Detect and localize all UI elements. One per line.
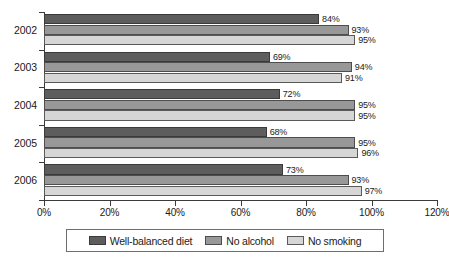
x-axis-tick: [372, 201, 373, 206]
x-axis-tick-label: 40%: [165, 207, 184, 218]
bar-2004-no-alcohol: [44, 100, 355, 110]
x-axis-tick-label: 120%: [425, 207, 449, 218]
bar-2006-no-smoking: [44, 186, 362, 196]
bar-value-label: 94%: [355, 62, 372, 72]
x-axis-tick-label: 100%: [359, 207, 384, 218]
bar-2004-no-smoking: [44, 110, 355, 120]
bar-value-label: 93%: [352, 175, 369, 185]
y-axis-tick: [39, 162, 44, 163]
y-axis-category-label-2005: 2005: [0, 137, 37, 149]
y-axis-category-label-2004: 2004: [0, 99, 37, 111]
x-axis-tick: [241, 201, 242, 206]
x-axis-tick-label: 80%: [296, 207, 315, 218]
bar-2003-no-smoking: [44, 73, 342, 83]
y-axis-tick: [39, 200, 44, 201]
bar-2005-well-balanced-diet: [44, 127, 267, 137]
x-axis-tick-label: 60%: [231, 207, 250, 218]
x-axis-tick: [110, 201, 111, 206]
bar-value-label: 95%: [358, 138, 375, 148]
bar-value-label: 68%: [270, 127, 287, 137]
y-axis-category-label-2006: 2006: [0, 174, 37, 186]
y-axis-tick: [39, 87, 44, 88]
y-axis-category-label-2002: 2002: [0, 24, 37, 36]
bar-2006-well-balanced-diet: [44, 164, 283, 174]
y-axis-tick: [39, 12, 44, 13]
bar-2004-well-balanced-diet: [44, 89, 280, 99]
x-axis-tick-label: 20%: [100, 207, 119, 218]
bar-value-label: 95%: [358, 35, 375, 45]
bar-2005-no-smoking: [44, 148, 358, 158]
bar-2005-no-alcohol: [44, 137, 355, 147]
bar-value-label: 96%: [361, 148, 378, 158]
bar-value-label: 91%: [345, 73, 362, 83]
bar-value-label: 69%: [273, 52, 290, 62]
bar-2002-no-smoking: [44, 35, 355, 45]
x-axis-tick-label: 0%: [37, 207, 51, 218]
legend-swatch-icon: [89, 236, 106, 245]
x-axis-tick: [44, 201, 45, 206]
bar-value-label: 84%: [322, 14, 339, 24]
legend-item-no-smoking[interactable]: No smoking: [287, 235, 361, 247]
legend-label: No smoking: [308, 235, 361, 247]
bar-2006-no-alcohol: [44, 175, 349, 185]
bar-value-label: 73%: [286, 165, 303, 175]
legend-item-no-alcohol[interactable]: No alcohol: [205, 235, 274, 247]
legend-item-well-balanced-diet[interactable]: Well-balanced diet: [89, 235, 193, 247]
bar-2003-well-balanced-diet: [44, 52, 270, 62]
bar-2002-well-balanced-diet: [44, 14, 319, 24]
legend-swatch-icon: [205, 236, 222, 245]
bar-value-label: 97%: [365, 186, 382, 196]
legend-label: Well-balanced diet: [110, 235, 193, 247]
x-axis-tick: [175, 201, 176, 206]
bar-value-label: 93%: [352, 25, 369, 35]
x-axis-tick: [437, 201, 438, 206]
bar-2002-no-alcohol: [44, 25, 349, 35]
bar-value-label: 95%: [358, 111, 375, 121]
bar-2003-no-alcohol: [44, 62, 352, 72]
bar-value-label: 72%: [283, 89, 300, 99]
chart-legend: Well-balanced dietNo alcoholNo smoking: [66, 229, 384, 252]
bar-value-label: 95%: [358, 100, 375, 110]
x-axis-tick: [306, 201, 307, 206]
y-axis-category-label-2003: 2003: [0, 61, 37, 73]
legend-swatch-icon: [287, 236, 304, 245]
legend-label: No alcohol: [226, 235, 274, 247]
